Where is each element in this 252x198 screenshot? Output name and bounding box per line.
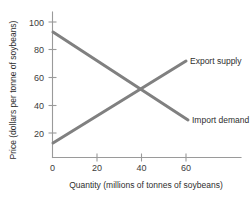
series-label-import-demand: Import demand	[192, 115, 249, 125]
chart-figure: 100 80 60 40 20 0 20 40 60 Price (dollar…	[0, 0, 252, 198]
y-tick-label-40: 40	[34, 101, 44, 111]
y-tick-label-80: 80	[34, 45, 44, 55]
y-tick-label-100: 100	[29, 18, 44, 28]
series-line-import-demand	[53, 32, 188, 120]
y-tick-label-20: 20	[34, 129, 44, 139]
x-tick-label-0: 0	[50, 163, 55, 173]
series-label-export-supply: Export supply	[190, 56, 242, 66]
x-axis-title: Quantity (millions of tonnes of soybeans…	[69, 180, 223, 190]
x-tick-label-40: 40	[136, 163, 146, 173]
chart-plot-area: 100 80 60 40 20 0 20 40 60 Price (dollar…	[0, 0, 252, 198]
x-tick-label-20: 20	[92, 163, 102, 173]
x-tick-label-60: 60	[181, 163, 191, 173]
y-axis-title: Price (dollars per tonne of soybeans)	[8, 20, 18, 159]
y-tick-label-60: 60	[34, 73, 44, 83]
series-line-export-supply	[53, 61, 186, 143]
